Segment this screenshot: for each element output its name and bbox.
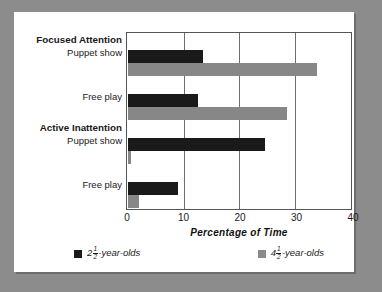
group-header-focused-attention: Focused Attention xyxy=(0,34,122,45)
gridline-30 xyxy=(295,33,296,209)
legend-suffix-0: -year-olds xyxy=(98,247,140,258)
figure-inner-panel: Focused Attention Puppet show Free play … xyxy=(14,12,354,272)
bar-inattention-puppet-2yr xyxy=(128,138,265,151)
bar-focused-freeplay-4yr xyxy=(128,107,287,120)
xtick-20: 20 xyxy=(225,212,255,223)
legend-whole-number-0: 2 xyxy=(87,247,92,258)
bar-focused-puppet-2yr xyxy=(128,50,203,63)
ylabel-focused-free-play: Free play xyxy=(0,91,122,102)
ylabel-inattention-puppet-show: Puppet show xyxy=(0,135,122,146)
bar-focused-freeplay-2yr xyxy=(128,94,198,107)
legend-fraction-numerator-1: 1 xyxy=(277,246,281,253)
bar-inattention-freeplay-4yr xyxy=(128,195,139,208)
legend-label-4-5-year-olds: 412-year-olds xyxy=(271,246,324,261)
chart-legend: 212-year-olds 412-year-olds xyxy=(74,246,324,261)
legend-fraction-denominator-1: 2 xyxy=(277,254,281,261)
legend-suffix-1: -year-olds xyxy=(282,247,324,258)
group-header-active-inattention: Active Inattention xyxy=(0,122,122,133)
legend-item-4-5-year-olds: 412-year-olds xyxy=(258,246,324,261)
plot-area xyxy=(126,32,352,210)
xtick-30: 30 xyxy=(282,212,312,223)
chart-figure: Focused Attention Puppet show Free play … xyxy=(0,0,382,292)
legend-swatch-dark xyxy=(74,250,82,258)
bar-focused-puppet-4yr xyxy=(128,63,317,76)
xtick-10: 10 xyxy=(169,212,199,223)
gridline-20 xyxy=(239,33,240,209)
xtick-40: 40 xyxy=(338,212,368,223)
legend-whole-number-1: 4 xyxy=(271,247,276,258)
ylabel-focused-puppet-show: Puppet show xyxy=(0,47,122,58)
legend-fraction-0: 12 xyxy=(93,246,98,261)
legend-fraction-numerator-0: 1 xyxy=(93,246,97,253)
bar-inattention-puppet-4yr xyxy=(128,151,131,164)
xtick-0: 0 xyxy=(112,212,142,223)
legend-swatch-light xyxy=(258,250,266,258)
legend-fraction-1: 12 xyxy=(276,246,281,261)
legend-item-2-5-year-olds: 212-year-olds xyxy=(74,246,140,261)
bar-inattention-freeplay-2yr xyxy=(128,182,178,195)
ylabel-inattention-free-play: Free play xyxy=(0,179,122,190)
legend-fraction-denominator-0: 2 xyxy=(93,254,97,261)
legend-label-2-5-year-olds: 212-year-olds xyxy=(87,246,140,261)
x-axis-title: Percentage of Time xyxy=(126,227,352,238)
